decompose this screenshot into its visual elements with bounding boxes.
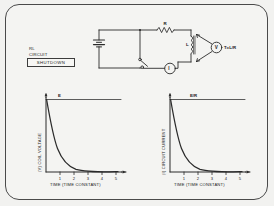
circuit-state-box: SHUTDOWN [27,58,75,67]
switch-blade [141,61,148,67]
right-graph-top-label: E/R [190,93,197,98]
circuit-state-label: SHUTDOWN [37,60,66,65]
inductor-label: L [186,42,189,47]
resistor-label: R [164,21,167,26]
left-graph-y-arrowhead [45,93,48,96]
right-graph-xtick-label-3: 3 [209,176,215,181]
circuit-title: RL CIRCUIT [29,46,47,59]
left-graph-xtick-label-5: 5 [113,176,119,181]
right-graph-x-arrowhead [247,171,250,174]
right-graph-xtick-label-5: 5 [237,176,243,181]
inductor-coil-symbol [191,36,193,54]
figure-root: RL CIRCUIT SHUTDOWN R L I V T=L/R E (V) … [0,0,274,206]
resistor-symbol [157,27,174,32]
voltmeter-lead-lower [197,52,213,62]
left-graph-decay-curve [47,100,118,172]
left-graph-x-title: TIME (TIME CONSTANT) [50,182,101,187]
left-graph-xtick-label-1: 1 [57,176,63,181]
left-graph-top-label: E [58,93,61,98]
right-graph-decay-curve [171,100,242,172]
left-graph-y-title: (V) COIL VOLTAGE [37,133,42,172]
schematic-canvas [0,0,274,206]
voltmeter-label: V [215,45,218,50]
left-graph-xtick-label-4: 4 [99,176,105,181]
left-graph-x-arrowhead [123,171,126,174]
ammeter-label: I [168,66,169,71]
right-graph-xtick-label-4: 4 [223,176,229,181]
voltmeter-lead-upper [197,35,213,45]
right-graph-xtick-label-2: 2 [195,176,201,181]
left-graph-xtick-label-2: 2 [71,176,77,181]
wire-ammeter-to-inductor [175,62,178,68]
right-graph-x-title: TIME (TIME CONSTANT) [174,182,225,187]
left-graph-xtick-label-3: 3 [85,176,91,181]
right-graph-xtick-label-1: 1 [181,176,187,181]
time-constant-annotation: T=L/R [224,45,236,50]
right-graph-y-arrowhead [169,93,172,96]
right-graph-y-title: (I) CIRCUIT CURRENT [161,129,166,175]
junction-dot-top [139,29,141,31]
ammeter-symbol [165,63,176,74]
